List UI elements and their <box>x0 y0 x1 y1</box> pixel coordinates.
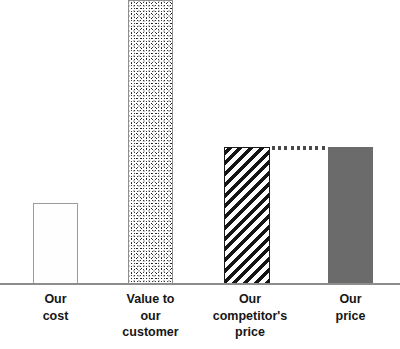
x-axis-category-labels: Our cost Value to our customer Our compe… <box>0 291 400 349</box>
bar-our-cost <box>33 203 78 284</box>
price-parity-connector-line <box>272 146 326 150</box>
x-label-value-to-our-customer: Value to our customer <box>105 291 196 341</box>
x-label-our-price: Our price <box>305 291 396 324</box>
x-label-our-cost: Our cost <box>10 291 101 324</box>
bar-value-to-our-customer <box>128 0 173 284</box>
bar-our-competitors-price <box>224 147 270 284</box>
x-axis-baseline <box>0 283 400 285</box>
plot-area <box>0 0 400 284</box>
bar-our-price <box>328 147 373 284</box>
x-label-our-competitors-price: Our competitor's price <box>201 291 299 341</box>
value-comparison-bar-chart: Our cost Value to our customer Our compe… <box>0 0 400 349</box>
